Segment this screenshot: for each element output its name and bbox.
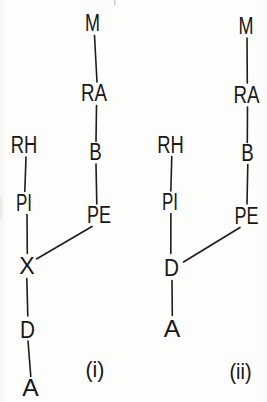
node-pi-i: PI <box>16 190 32 216</box>
scanned-figure-page: M RA B PE RH PI X D A (i) M RA B PE R <box>0 0 267 402</box>
node-pi-ii: PI <box>162 189 178 215</box>
edge-b-pe <box>247 165 248 205</box>
node-a-ii: A <box>164 316 181 342</box>
node-x-i: X <box>19 253 35 279</box>
node-ra-ii: RA <box>234 82 261 108</box>
edge-rh-pi <box>25 157 26 192</box>
caption-i: (i) <box>86 357 105 382</box>
edge-pe-d <box>184 228 241 263</box>
edge-m-ra <box>95 36 98 83</box>
node-d-i: D <box>20 317 35 343</box>
node-d-ii: D <box>164 255 179 281</box>
edge-rh-pi <box>171 157 172 192</box>
node-m-i: M <box>85 10 100 36</box>
node-b-ii: B <box>241 140 254 166</box>
node-a-i: A <box>22 375 39 401</box>
edge-b-pe <box>96 164 97 204</box>
scan-artifact-smudge <box>0 197 3 219</box>
node-ra-i: RA <box>81 80 108 106</box>
node-m-ii: M <box>239 13 254 39</box>
node-pe-ii: PE <box>235 203 259 229</box>
node-rh-ii: RH <box>157 132 184 158</box>
edge-pe-x <box>37 227 93 260</box>
edge-d-a <box>28 341 31 377</box>
edge-ra-b <box>96 106 97 142</box>
caption-ii: (ii) <box>230 359 252 384</box>
node-pe-i: PE <box>87 202 111 228</box>
stemma-tree-figure: M RA B PE RH PI X D A (i) M RA B PE R <box>0 0 267 402</box>
node-rh-i: RH <box>11 132 38 158</box>
edge-x-d <box>27 279 28 317</box>
node-b-i: B <box>89 139 102 165</box>
diagram-ii-edges <box>171 38 248 316</box>
